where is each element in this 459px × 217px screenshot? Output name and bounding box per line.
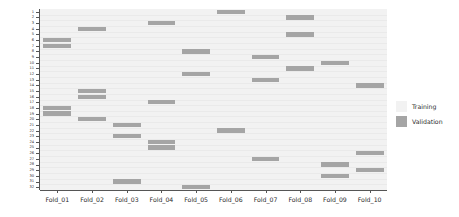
y-axis-tick-label: 31	[18, 179, 34, 183]
y-axis-tick-label: 6	[18, 38, 34, 42]
y-axis-tick-label: 8	[18, 49, 34, 53]
x-axis-tick	[161, 190, 162, 193]
y-axis-tick-label: 20	[18, 117, 34, 121]
validation-cell	[113, 179, 141, 183]
validation-cell	[148, 100, 176, 104]
y-axis-tick	[36, 165, 39, 166]
validation-cell	[182, 49, 210, 53]
gridline	[40, 105, 387, 106]
y-axis-tick	[36, 29, 39, 30]
gridline	[40, 15, 387, 16]
y-axis-tick	[36, 125, 39, 126]
y-axis-tick-label: 26	[18, 151, 34, 155]
y-axis-tick	[36, 97, 39, 98]
gridline	[40, 32, 387, 33]
y-axis-tick-label: 3	[18, 21, 34, 25]
validation-cell	[182, 185, 210, 189]
x-axis-tick	[57, 190, 58, 193]
validation-cell	[148, 21, 176, 25]
y-axis-tick-label: 11	[18, 66, 34, 70]
y-axis-tick-label: 5	[18, 32, 34, 36]
y-axis-tick	[36, 57, 39, 58]
y-axis-tick	[36, 91, 39, 92]
y-axis-tick-label: 12	[18, 72, 34, 76]
y-axis-tick	[36, 159, 39, 160]
validation-cell	[286, 66, 314, 70]
validation-cell	[286, 32, 314, 36]
gridline	[40, 43, 387, 44]
gridline	[40, 54, 387, 55]
validation-cell	[252, 157, 280, 161]
x-axis-tick	[300, 190, 301, 193]
y-axis-tick-label: 15	[18, 89, 34, 93]
y-axis-tick	[36, 34, 39, 35]
validation-cell	[321, 174, 349, 178]
y-axis-tick-label: 14	[18, 83, 34, 87]
y-axis-tick	[36, 136, 39, 137]
y-axis-tick	[36, 176, 39, 177]
gridline	[40, 71, 387, 72]
y-axis-spine	[39, 9, 40, 190]
y-axis-tick	[36, 40, 39, 41]
y-axis-tick-label: 25	[18, 145, 34, 149]
gridline	[40, 128, 387, 129]
validation-cell	[252, 55, 280, 59]
validation-cell	[356, 151, 384, 155]
gridline	[40, 139, 387, 140]
validation-cell	[148, 145, 176, 149]
y-axis-tick-label: 21	[18, 123, 34, 127]
legend-swatch	[396, 101, 407, 112]
y-axis-tick	[36, 12, 39, 13]
y-axis-tick-label: 4	[18, 27, 34, 31]
y-axis-tick	[36, 85, 39, 86]
y-axis-tick-label: 28	[18, 162, 34, 166]
validation-cell	[113, 123, 141, 127]
y-axis-tick	[36, 102, 39, 103]
legend-swatch	[396, 116, 407, 127]
y-axis-tick	[36, 119, 39, 120]
y-axis-tick-label: 1	[18, 10, 34, 14]
y-axis-tick-label: 29	[18, 168, 34, 172]
validation-cell	[356, 83, 384, 87]
gridline	[40, 20, 387, 21]
validation-cell	[78, 27, 106, 31]
validation-cell	[148, 140, 176, 144]
cv-fold-assignment-figure: Observation ID 1234567891011121314151617…	[0, 0, 459, 217]
validation-cell	[321, 61, 349, 65]
legend: TrainingValidation	[396, 101, 456, 129]
y-axis-tick	[36, 46, 39, 47]
x-axis-tick	[196, 190, 197, 193]
y-axis-tick	[36, 131, 39, 132]
y-axis-tick	[36, 63, 39, 64]
x-axis-tick	[231, 190, 232, 193]
y-axis-tick	[36, 142, 39, 143]
validation-cell	[78, 95, 106, 99]
validation-cell	[252, 78, 280, 82]
gridline	[40, 111, 387, 112]
gridline	[40, 66, 387, 67]
y-axis-tick-label: 13	[18, 78, 34, 82]
y-axis-tick	[36, 23, 39, 24]
x-axis-tick	[335, 190, 336, 193]
x-axis-tick	[370, 190, 371, 193]
y-axis-tick-label: 17	[18, 100, 34, 104]
validation-cell	[182, 72, 210, 76]
y-axis-tick	[36, 187, 39, 188]
gridline	[40, 49, 387, 50]
y-axis-tick	[36, 170, 39, 171]
y-axis-tick	[36, 80, 39, 81]
heatmap-plot-area	[40, 9, 387, 190]
y-axis-tick	[36, 114, 39, 115]
legend-label: Training	[412, 103, 436, 110]
gridline	[40, 150, 387, 151]
gridline	[40, 122, 387, 123]
validation-cell	[78, 89, 106, 93]
y-axis-tick-label: 10	[18, 61, 34, 65]
y-axis-tick-label: 24	[18, 140, 34, 144]
y-axis-tick	[36, 68, 39, 69]
validation-cell	[43, 106, 71, 110]
y-axis-tick	[36, 148, 39, 149]
x-axis-tick	[266, 190, 267, 193]
gridline	[40, 156, 387, 157]
y-axis-tick	[36, 74, 39, 75]
